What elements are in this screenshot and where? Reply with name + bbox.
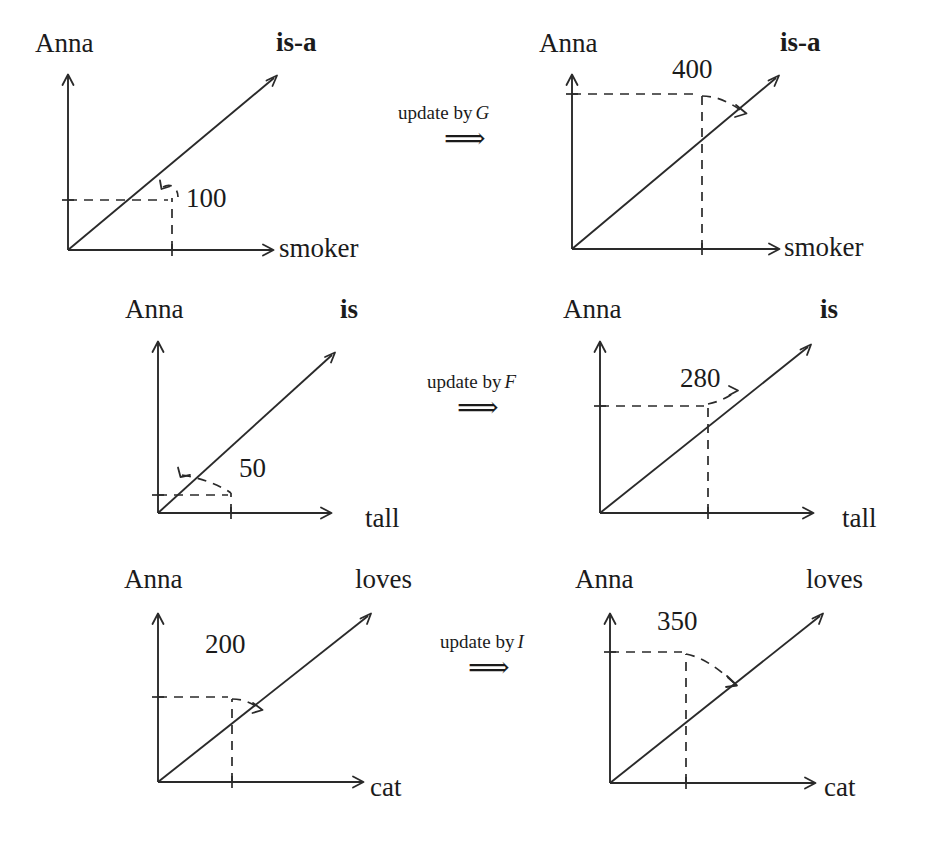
panel-1-geometry <box>566 75 780 256</box>
panel-3-arc-arrowhead <box>729 386 738 395</box>
panel-5-dash-arc <box>686 654 734 683</box>
panel-0-geometry <box>62 75 277 257</box>
panel-2-relation-ray <box>158 355 332 513</box>
panel-0-x-axis-label: smoker <box>279 235 358 262</box>
panel-4-value-label: 200 <box>205 631 246 658</box>
panel-3-x-axis-label: tall <box>842 505 877 532</box>
panel-5-relation-label: loves <box>806 566 863 593</box>
panel-0-value-label: 100 <box>186 185 227 212</box>
panel-3-value-label: 280 <box>680 365 721 392</box>
transition-2-text: update by <box>440 631 514 652</box>
panel-2-x-axis-label: tall <box>365 505 400 532</box>
panel-1-x-axis-label: smoker <box>784 234 863 261</box>
panel-5-geometry <box>604 614 823 790</box>
transition-2-implies-icon: ⟹ <box>468 653 510 682</box>
panel-1-relation-label: is-a <box>780 29 821 56</box>
panel-0-y-axis-label: Anna <box>35 30 93 57</box>
panel-4-geometry <box>152 614 371 789</box>
panel-1-relation-ray <box>572 78 776 249</box>
transition-1-implies-icon: ⟹ <box>457 393 499 422</box>
panel-2-arc-arrowhead <box>178 468 190 478</box>
panel-1-y-axis-label: Anna <box>539 30 597 57</box>
panel-4-y-axis-label: Anna <box>124 566 182 593</box>
panel-0-relation-ray <box>68 78 274 250</box>
transition-0-symbol: G <box>472 102 489 123</box>
panel-2-y-axis-label: Anna <box>125 296 183 323</box>
panel-5-value-label: 350 <box>657 608 698 635</box>
panel-2-geometry <box>152 342 335 520</box>
panel-5-relation-ray <box>610 616 820 783</box>
transition-0-implies-icon: ⟹ <box>444 124 486 153</box>
panel-5-y-axis-label: Anna <box>575 566 633 593</box>
panel-4-x-axis-label: cat <box>370 774 401 801</box>
figure-root: Anna is-a smoker 100 update byG ⟹ Anna i… <box>0 0 925 843</box>
transition-2-symbol: I <box>514 631 523 652</box>
panel-2-value-label: 50 <box>239 455 266 482</box>
transition-1-label: update byF <box>427 372 516 391</box>
panel-0-relation-label: is-a <box>276 29 317 56</box>
panel-2-relation-label: is <box>340 296 358 323</box>
panel-3-relation-label: is <box>820 296 838 323</box>
panel-1-value-label: 400 <box>672 56 713 83</box>
panel-5-arc-arrowhead <box>726 676 737 687</box>
transition-1-symbol: F <box>501 371 516 392</box>
transition-0-text: update by <box>398 102 472 123</box>
transition-1-text: update by <box>427 371 501 392</box>
transition-2-label: update byI <box>440 632 524 651</box>
transition-0-label: update byG <box>398 103 489 122</box>
panel-5-x-axis-label: cat <box>824 774 855 801</box>
panel-3-y-axis-label: Anna <box>563 296 621 323</box>
panel-4-relation-ray <box>158 616 368 782</box>
panel-4-relation-label: loves <box>355 566 412 593</box>
